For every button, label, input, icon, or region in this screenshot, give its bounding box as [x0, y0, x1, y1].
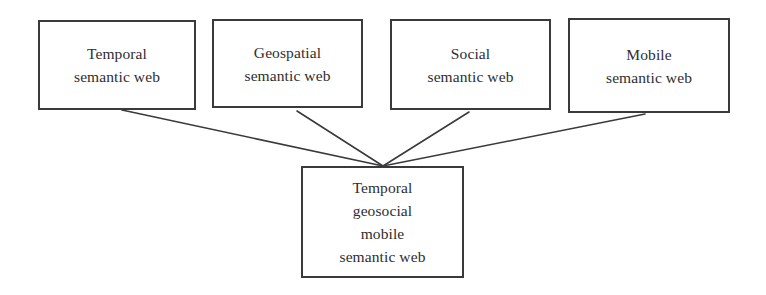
- node-mobile-semantic-web-label: Mobile semantic web: [600, 43, 698, 89]
- connector-geospatial-to-combined: [297, 111, 383, 166]
- node-temporal-semantic-web-label: Temporal semantic web: [68, 42, 166, 88]
- node-social-semantic-web: Social semantic web: [390, 19, 551, 110]
- node-social-semantic-web-label: Social semantic web: [422, 42, 520, 88]
- connector-temporal-to-combined: [122, 110, 383, 166]
- node-mobile-semantic-web: Mobile semantic web: [568, 18, 730, 113]
- node-temporal-semantic-web: Temporal semantic web: [38, 20, 196, 110]
- diagram-canvas: Temporal semantic web Geospatial semanti…: [0, 0, 766, 295]
- node-geospatial-semantic-web: Geospatial semantic web: [212, 19, 363, 108]
- node-temporal-geosocial-mobile-semantic-web-label: Temporal geosocial mobile semantic web: [334, 176, 432, 268]
- node-temporal-geosocial-mobile-semantic-web: Temporal geosocial mobile semantic web: [301, 166, 464, 278]
- connector-social-to-combined: [383, 112, 469, 166]
- node-geospatial-semantic-web-label: Geospatial semantic web: [239, 41, 337, 87]
- connector-mobile-to-combined: [383, 114, 645, 166]
